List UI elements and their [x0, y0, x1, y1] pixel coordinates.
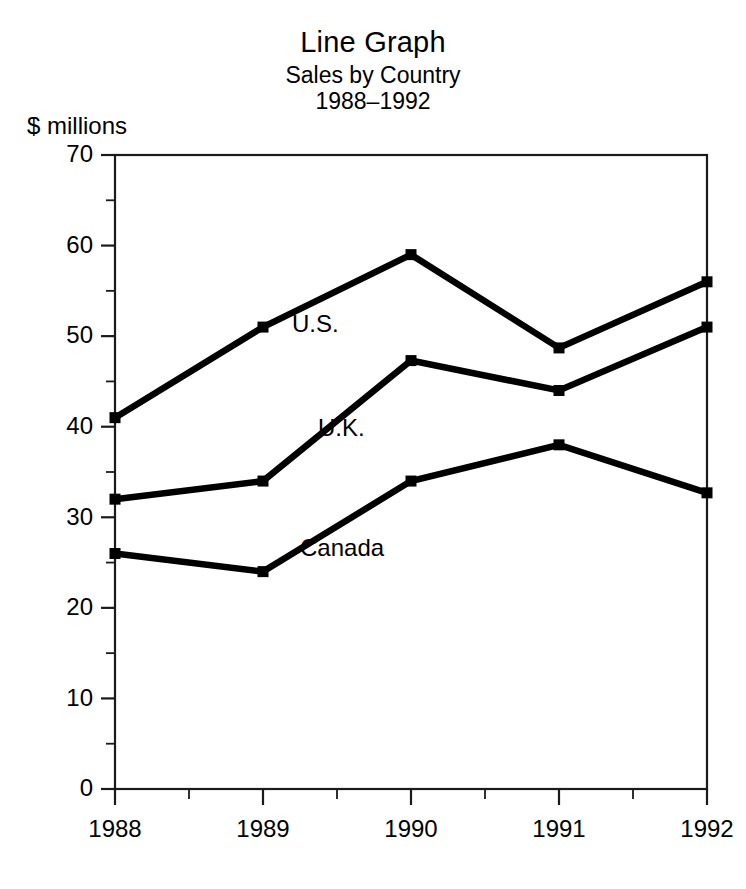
data-point-marker [258, 566, 269, 577]
data-point-marker [406, 355, 417, 366]
y-axis-ticks [101, 155, 115, 789]
x-axis-tick-labels: 19881989199019911992 [88, 815, 733, 842]
series-line-us [115, 255, 707, 418]
data-point-marker [702, 276, 713, 287]
data-point-marker [258, 476, 269, 487]
line-chart-figure: Line Graph Sales by Country 1988–1992 $ … [0, 0, 746, 889]
series-label-uk: U.K. [318, 414, 365, 441]
series-line-uk [115, 327, 707, 499]
x-axis-ticks [115, 789, 707, 805]
x-tick-label: 1992 [680, 815, 733, 842]
data-point-marker [702, 487, 713, 498]
y-tick-label: 30 [66, 503, 93, 530]
data-point-marker [110, 494, 121, 505]
y-tick-label: 20 [66, 593, 93, 620]
y-axis-tick-labels: 010203040506070 [66, 140, 93, 801]
y-tick-label: 60 [66, 231, 93, 258]
y-tick-label: 50 [66, 321, 93, 348]
series-label-us: U.S. [292, 310, 339, 337]
data-point-marker [554, 439, 565, 450]
plot-area: 010203040506070 19881989199019911992 U.S… [0, 0, 746, 889]
x-tick-label: 1990 [384, 815, 437, 842]
series-line-canada [115, 445, 707, 572]
series-lines [115, 255, 707, 572]
x-tick-label: 1988 [88, 815, 141, 842]
data-point-marker [110, 548, 121, 559]
y-tick-label: 40 [66, 412, 93, 439]
data-point-marker [406, 249, 417, 260]
x-tick-label: 1989 [236, 815, 289, 842]
data-point-marker [406, 476, 417, 487]
y-tick-label: 10 [66, 684, 93, 711]
series-markers [110, 249, 713, 577]
x-tick-label: 1991 [532, 815, 585, 842]
data-point-marker [702, 322, 713, 333]
data-point-marker [110, 412, 121, 423]
y-tick-label: 70 [66, 140, 93, 167]
data-point-marker [554, 342, 565, 353]
y-tick-label: 0 [80, 774, 93, 801]
series-label-canada: Canada [300, 534, 385, 561]
data-point-marker [258, 322, 269, 333]
data-point-marker [554, 385, 565, 396]
